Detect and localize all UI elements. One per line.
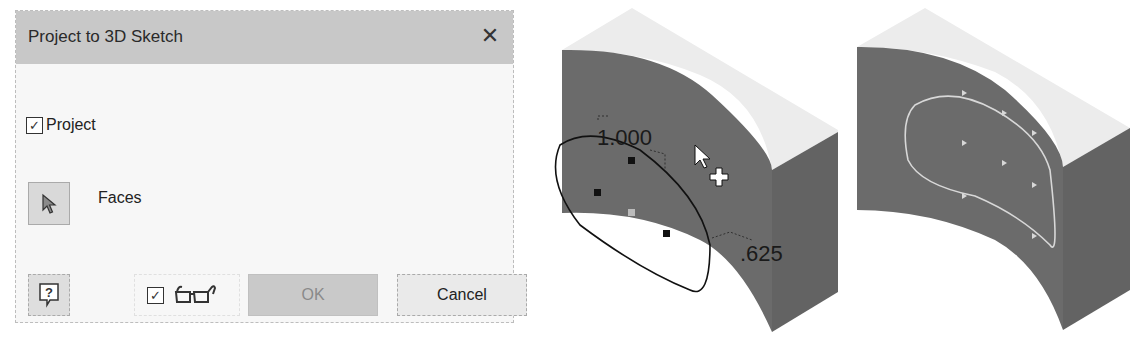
dialog-title: Project to 3D Sketch xyxy=(28,27,183,47)
project-checkbox[interactable]: ✓ xyxy=(26,117,43,134)
dialog-titlebar[interactable]: Project to 3D Sketch ✕ xyxy=(16,11,513,64)
project-to-3d-sketch-dialog: Project to 3D Sketch ✕ ✓ Project Faces ?… xyxy=(15,10,514,323)
faces-label: Faces xyxy=(98,189,142,207)
spline-point[interactable] xyxy=(628,209,635,216)
close-icon[interactable]: ✕ xyxy=(475,21,505,51)
dimension-top[interactable]: 1.000 xyxy=(597,125,652,150)
spline-point[interactable] xyxy=(663,230,670,237)
dimension-right[interactable]: .625 xyxy=(740,241,783,266)
glasses-preview-icon xyxy=(172,284,218,306)
project-checkbox-row[interactable]: ✓ Project xyxy=(26,116,96,134)
viewport-before[interactable]: 1.000 .625 xyxy=(545,0,845,351)
help-icon: ? xyxy=(38,282,60,308)
select-arrow-icon xyxy=(40,193,58,215)
preview-toggle-group[interactable]: ✓ xyxy=(134,274,240,316)
ok-button[interactable]: OK xyxy=(248,274,378,316)
faces-select-button[interactable] xyxy=(28,182,70,225)
help-button[interactable]: ? xyxy=(28,274,70,316)
project-checkbox-label: Project xyxy=(46,116,96,134)
cancel-button[interactable]: Cancel xyxy=(397,274,527,316)
svg-text:?: ? xyxy=(45,285,53,300)
preview-checkbox[interactable]: ✓ xyxy=(147,287,164,304)
spline-point[interactable] xyxy=(628,157,635,164)
spline-point[interactable] xyxy=(594,189,601,196)
viewport-after[interactable] xyxy=(850,0,1146,351)
